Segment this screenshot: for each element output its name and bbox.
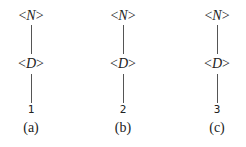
leaf-node: 1: [0, 104, 71, 116]
child-node: <D>: [0, 56, 71, 72]
edge: [217, 25, 218, 54]
root-node: <N>: [83, 8, 163, 24]
root-node: <N>: [0, 8, 71, 24]
caption: (c): [177, 120, 246, 136]
edge: [31, 74, 32, 103]
edge: [123, 74, 124, 103]
child-node: <D>: [177, 56, 246, 72]
leaf-node: 3: [177, 104, 246, 116]
root-node: <N>: [177, 8, 246, 24]
tree-b: <N> <D> 2 (b): [83, 0, 163, 147]
edge: [217, 74, 218, 103]
caption: (a): [0, 120, 71, 136]
tree-c: <N> <D> 3 (c): [177, 0, 246, 147]
leaf-node: 2: [83, 104, 163, 116]
tree-a: <N> <D> 1 (a): [0, 0, 71, 147]
edge: [123, 25, 124, 54]
caption: (b): [83, 120, 163, 136]
edge: [31, 25, 32, 54]
child-node: <D>: [83, 56, 163, 72]
